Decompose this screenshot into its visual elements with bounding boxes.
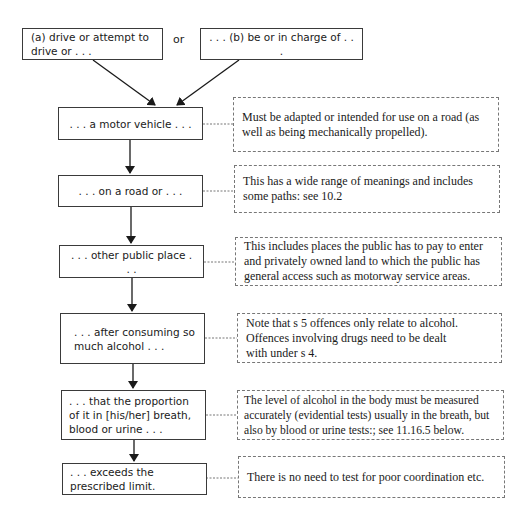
note-box-public-place: This includes places the public has to p…	[235, 237, 502, 286]
note-box-consuming-alcohol: Note that s 5 offences only relate to al…	[237, 313, 502, 363]
start-box-in-charge-label: . . . (b) be or in charge of . . .	[209, 30, 354, 58]
step-box-exceeds-limit: . . . exceeds the prescribed limit.	[62, 463, 207, 495]
note-box-on-a-road: This has a wide range of meanings and in…	[234, 165, 500, 213]
note-box-proportion: The level of alcohol in the body must be…	[237, 390, 504, 440]
step-label: . . . on a road or . . .	[79, 184, 183, 198]
start-box-in-charge: . . . (b) be or in charge of . . .	[200, 28, 363, 60]
note-text: Must be adapted or intended for use on a…	[242, 110, 490, 140]
step-label: . . . a motor vehicle . . .	[69, 117, 191, 131]
step-box-proportion: . . . that the proportion of it in [his/…	[61, 390, 206, 440]
note-text: This includes places the public has to p…	[244, 239, 493, 284]
note-text: Note that s 5 offences only relate to al…	[246, 316, 461, 361]
step-box-on-a-road: . . . on a road or . . .	[58, 175, 203, 207]
note-text: This has a wide range of meanings and in…	[243, 174, 491, 204]
start-box-drive-label: (a) drive or attempt to drive or . . .	[31, 30, 154, 58]
step-label: . . . after consuming so much alcohol . …	[74, 325, 196, 353]
note-box-motor-vehicle: Must be adapted or intended for use on a…	[233, 97, 499, 152]
arrow-a-to-vehicle	[93, 60, 155, 105]
note-box-exceeds-limit: There is no need to test for poor coordi…	[238, 456, 505, 498]
step-label: . . . exceeds the prescribed limit.	[70, 465, 202, 493]
step-box-motor-vehicle: . . . a motor vehicle . . .	[58, 107, 203, 140]
note-text: There is no need to test for poor coordi…	[247, 470, 484, 485]
start-box-drive: (a) drive or attempt to drive or . . .	[22, 28, 163, 60]
step-box-public-place: . . . other public place . . .	[59, 245, 204, 278]
note-text: The level of alcohol in the body must be…	[244, 393, 497, 438]
arrow-b-to-vehicle	[177, 60, 239, 105]
step-label: . . . that the proportion of it in [his/…	[69, 394, 201, 436]
step-label: . . . other public place . . .	[68, 248, 195, 276]
step-box-consuming-alcohol: . . . after consuming so much alcohol . …	[60, 313, 205, 364]
or-label: or	[173, 33, 184, 46]
